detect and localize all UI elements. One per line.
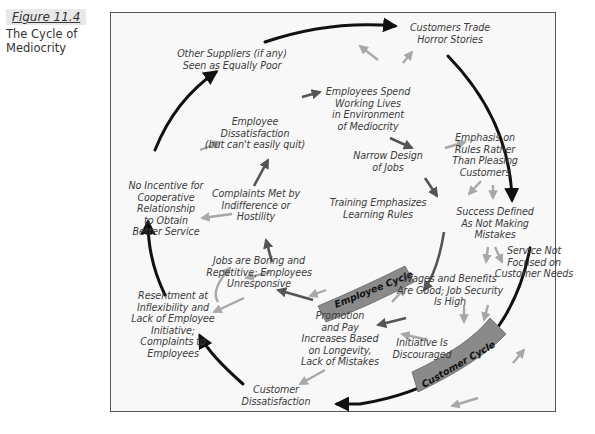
node-customer-dissatisfaction: CustomerDissatisfaction: [226, 384, 326, 407]
node-wages-and-benefits: Wages and BenefitsAre Good; Job Security…: [385, 273, 515, 308]
node-emphasis-on-rules: Emphasis onRules Rather Than PleasingCus…: [445, 132, 525, 178]
node-complaints-met: Complaints Met byIndifference or Hostili…: [200, 188, 312, 223]
node-customers-trade-horror-stories: Customers TradeHorror Stories: [395, 22, 505, 45]
node-other-suppliers: Other Suppliers (if any)Seen as Equally …: [172, 48, 292, 71]
node-jobs-are-boring: Jobs are Boring andRepetitive; Employees…: [196, 255, 322, 290]
node-training-emphasizes: Training EmphasizesLearning Rules: [318, 197, 438, 220]
node-success-defined: Success DefinedAs Not Making Mistakes: [445, 206, 545, 241]
node-employees-spend-working-lives: Employees SpendWorking Lives in Environm…: [318, 86, 418, 132]
node-promotion-and-pay: Promotionand Pay Increases Basedon Longe…: [292, 310, 388, 368]
node-employee-dissatisfaction: EmployeeDissatisfaction (but can't easil…: [197, 116, 313, 151]
node-resentment: Resentment atInflexibility and Lack of E…: [118, 290, 228, 359]
node-narrow-design-of-jobs: Narrow Designof Jobs: [348, 150, 428, 173]
node-no-incentive: No Incentive forCooperative Relationship…: [124, 180, 208, 238]
node-initiative-discouraged: Initiative IsDiscouraged: [382, 337, 462, 360]
